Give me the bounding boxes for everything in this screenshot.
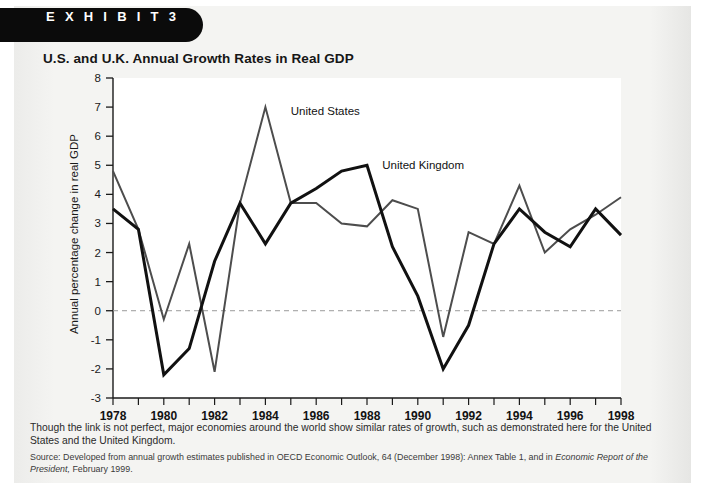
- y-axis-title: Annual percentage change in real GDP: [68, 84, 80, 384]
- y-tick-label: -2: [91, 363, 101, 375]
- y-tick-label: 1: [95, 276, 101, 288]
- y-axis-group: 876543210-1-2-3: [91, 72, 113, 404]
- data-series-lines: [113, 107, 621, 375]
- x-axis-ticks: 1978198019821984198619881990199219941996…: [100, 398, 635, 423]
- exhibit-source: Source: Developed from annual growth est…: [30, 452, 680, 475]
- y-tick-label: 3: [95, 217, 101, 229]
- y-tick-label: 5: [95, 159, 101, 171]
- y-axis-ticks: 876543210-1-2-3: [91, 72, 113, 404]
- y-tick-label: 2: [95, 247, 101, 259]
- y-tick-label: 4: [95, 188, 102, 200]
- series-label-united-states: United States: [291, 105, 360, 117]
- page-title: U.S. and U.K. Annual Growth Rates in Rea…: [43, 51, 354, 66]
- y-tick-label: 0: [95, 305, 101, 317]
- y-tick-label: -1: [91, 334, 101, 346]
- y-tick-label: 6: [95, 130, 101, 142]
- x-axis-group: 1978198019821984198619881990199219941996…: [100, 398, 635, 423]
- source-prefix: Source: Developed from annual growth est…: [30, 452, 555, 462]
- series-line-united-kingdom: [113, 165, 621, 374]
- source-suffix: February 1999.: [70, 464, 133, 474]
- growth-rate-line-chart: 876543210-1-2-3 197819801982198419861988…: [0, 0, 705, 489]
- exhibit-label: E X H I B I T 3: [46, 9, 179, 24]
- series-line-united-states: [113, 107, 621, 372]
- y-tick-label: 8: [95, 72, 101, 84]
- y-tick-label: 7: [95, 101, 101, 113]
- exhibit-page: E X H I B I T 3 U.S. and U.K. Annual Gro…: [0, 0, 705, 489]
- y-tick-label: -3: [91, 392, 101, 404]
- exhibit-caption: Though the link is not perfect, major ec…: [30, 421, 680, 448]
- series-label-united-kingdom: United Kingdom: [382, 159, 464, 171]
- series-annotations: United StatesUnited Kingdom: [291, 105, 464, 171]
